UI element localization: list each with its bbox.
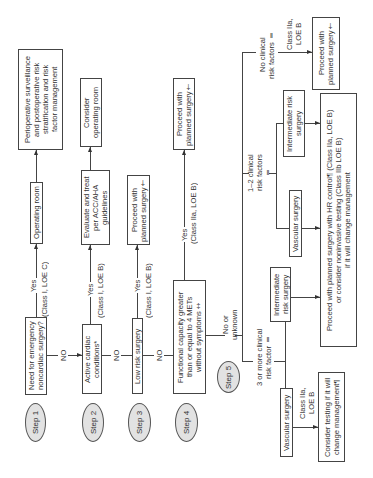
step-1-yes-label: Yes <box>28 278 38 293</box>
step-1-no-label: NO <box>58 349 68 361</box>
step-3-evidence-label: (Class I, LOE B) <box>143 260 153 322</box>
step-4-proceed-box: Proceed with planned surgery† <box>173 78 195 150</box>
connector-line <box>276 228 289 229</box>
connector-line <box>285 322 286 388</box>
step-4-evidence-label: (Class IIa, LOE B) <box>188 180 198 246</box>
step-2-question-box: Active cardiac conditions* <box>82 324 102 394</box>
arrow-up-icon <box>34 150 38 155</box>
step-2-badge: Step 2 <box>82 403 104 442</box>
arrow-up-icon <box>88 147 92 152</box>
hr-control-proceed-box: Proceed with planned surgery with HR con… <box>320 93 357 347</box>
evaluate-and-treat-box: Evaluate and treat per ACC/AHA guideline… <box>81 170 110 245</box>
step-4-question-box: Functional capacity greater than or equa… <box>173 280 206 394</box>
connector-line <box>276 123 277 228</box>
step-1-badge: Step 1 <box>25 403 46 442</box>
arrow-up-icon <box>88 245 92 250</box>
step-1-question-box: Need for emergency noncardiac surgery? <box>25 317 47 395</box>
three-plus-vascular-surgery-box: Vascular surgery <box>280 388 293 457</box>
one-two-intermediate-surgery-box: Intermediate risk surgery <box>283 90 305 157</box>
step-3-question-box: Low risk surgery <box>132 318 143 394</box>
arrow-up-icon <box>135 245 139 250</box>
step-2-evidence-label: (Class I, LOE B) <box>95 260 105 322</box>
one-two-vascular-surgery-box: Vascular surgery <box>289 190 302 257</box>
connector-line <box>242 52 243 361</box>
step-4-badge: Step 4 <box>175 403 198 442</box>
step-4-no-label: No or unknown <box>225 305 235 345</box>
consider-operating-room-box: Consider operating room <box>80 78 102 147</box>
consider-testing-box: Consider testing if it will change manag… <box>318 372 345 462</box>
step-5-badge: Step 5 <box>217 361 240 393</box>
step-3-proceed-box: Proceed with planned surgery† <box>127 175 150 245</box>
no-risk-proceed-box: Proceed with planned surgery† <box>312 17 340 90</box>
step-1-evidence-label: (Class I, LOE C) <box>39 258 49 320</box>
no-risk-evidence-label: Class IIa, LOE B <box>284 18 304 50</box>
step-3-badge: Step 3 <box>128 403 151 442</box>
step-3-yes-label: Yes <box>132 278 142 293</box>
connector-line <box>184 150 185 280</box>
one-two-risk-factors-label: 1–2 clinical risk factors ‖ <box>249 150 269 196</box>
operating-room-box: Operating room <box>30 182 43 244</box>
three-plus-evidence-label: Class IIa, LOE B <box>297 386 316 420</box>
perioperative-surveillance-box: Perioperative surveillance and postopera… <box>18 49 63 150</box>
no-risk-factors-label: No clinical risk factors ‖ <box>256 28 278 82</box>
step-2-yes-label: Yes <box>85 282 95 297</box>
step-3-no-label: NO <box>154 349 164 361</box>
three-plus-intermediate-surgery-box: Intermediate risk surgery <box>270 267 291 322</box>
connector-line <box>276 123 283 124</box>
step-2-no-label: NO <box>111 349 121 361</box>
three-plus-risk-factors-label: 3 or more clinical risk factor ‖ <box>253 326 274 388</box>
arrow-up-icon <box>34 244 38 249</box>
arrow-up-icon <box>182 150 186 155</box>
